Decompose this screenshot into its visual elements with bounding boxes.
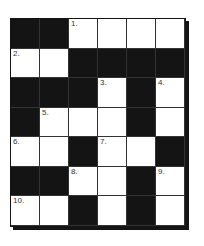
clue-number: 2. <box>13 50 20 58</box>
crossword-cell[interactable] <box>127 19 156 49</box>
crossword-block <box>69 49 98 79</box>
crossword-cell[interactable] <box>98 167 127 197</box>
crossword-cell[interactable]: 4. <box>156 78 185 108</box>
crossword-block <box>11 19 40 49</box>
crossword-cell[interactable] <box>156 196 185 226</box>
clue-number: 1. <box>71 20 78 28</box>
crossword-cell[interactable]: 5. <box>40 108 69 138</box>
crossword-cell[interactable] <box>127 137 156 167</box>
crossword-cell[interactable] <box>40 49 69 79</box>
crossword-grid: 1.2.3.4.5.6.7.8.9.10. <box>10 18 186 227</box>
clue-number: 3. <box>100 79 107 87</box>
crossword-block <box>127 196 156 226</box>
crossword-cell[interactable] <box>98 108 127 138</box>
crossword-block <box>156 137 185 167</box>
crossword-cell[interactable]: 8. <box>69 167 98 197</box>
crossword-block <box>40 167 69 197</box>
crossword-cell[interactable] <box>98 19 127 49</box>
crossword-block <box>11 167 40 197</box>
crossword-block <box>98 49 127 79</box>
crossword-block <box>11 78 40 108</box>
crossword-cell[interactable]: 1. <box>69 19 98 49</box>
crossword-block <box>69 137 98 167</box>
crossword-block <box>40 19 69 49</box>
crossword-cell[interactable] <box>156 108 185 138</box>
crossword-block <box>127 78 156 108</box>
crossword-block <box>127 49 156 79</box>
crossword-cell[interactable] <box>98 196 127 226</box>
crossword-block <box>127 167 156 197</box>
crossword-cell[interactable] <box>40 196 69 226</box>
clue-number: 7. <box>100 138 107 146</box>
crossword-cell[interactable]: 10. <box>11 196 40 226</box>
crossword-block <box>69 78 98 108</box>
clue-number: 8. <box>71 168 78 176</box>
crossword-block <box>11 108 40 138</box>
clue-number: 4. <box>158 79 165 87</box>
crossword-block <box>40 78 69 108</box>
crossword-block <box>69 196 98 226</box>
crossword-cell[interactable] <box>69 108 98 138</box>
crossword-cell[interactable]: 6. <box>11 137 40 167</box>
clue-number: 10. <box>13 197 24 205</box>
crossword-cell[interactable]: 7. <box>98 137 127 167</box>
clue-number: 6. <box>13 138 20 146</box>
crossword-cell[interactable]: 9. <box>156 167 185 197</box>
crossword-cell[interactable]: 2. <box>11 49 40 79</box>
crossword-cell[interactable] <box>156 19 185 49</box>
crossword-block <box>127 108 156 138</box>
crossword-block <box>156 49 185 79</box>
clue-number: 9. <box>158 168 165 176</box>
crossword-cell[interactable]: 3. <box>98 78 127 108</box>
clue-number: 5. <box>42 109 49 117</box>
crossword-cell[interactable] <box>40 137 69 167</box>
